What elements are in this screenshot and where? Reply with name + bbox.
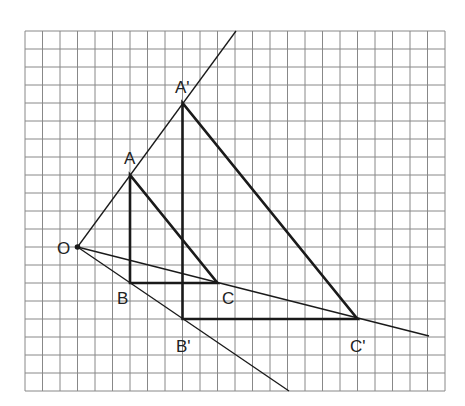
label-b: B — [117, 289, 128, 308]
label-a: A — [124, 149, 136, 168]
point-labels: O A B C A' B' C' — [57, 78, 366, 356]
label-c-prime: C' — [350, 337, 366, 356]
label-b-prime: B' — [176, 337, 191, 356]
homothety-diagram: O A B C A' B' C' — [0, 0, 465, 406]
label-c: C — [222, 289, 234, 308]
label-a-prime: A' — [175, 78, 190, 97]
label-o: O — [57, 239, 70, 258]
grid — [25, 31, 445, 391]
center-point-o — [75, 244, 81, 250]
